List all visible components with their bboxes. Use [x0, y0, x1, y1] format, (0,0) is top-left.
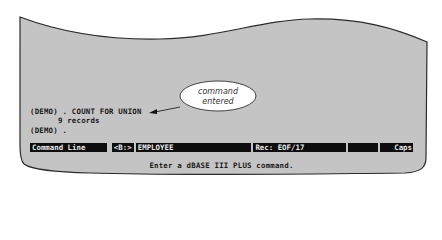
callout-bubble: [180, 81, 256, 111]
status-mode: Command Line: [30, 143, 107, 152]
help-message: Enter a dBASE III PLUS command.: [30, 161, 413, 170]
console-line-command: (DEMO) . COUNT FOR UNION: [30, 107, 142, 116]
status-bar: Command Line <B:> EMPLOYEE Rec: EOF/17 C…: [30, 143, 413, 152]
console-line-prompt: (DEMO) .: [30, 126, 67, 135]
status-caps: Caps: [380, 143, 413, 152]
status-drive: <B:>: [112, 143, 134, 152]
callout-line1: command: [198, 87, 239, 96]
status-blank: [348, 143, 378, 152]
status-database: EMPLOYEE: [136, 143, 252, 152]
callout-line2: entered: [202, 97, 234, 106]
console-line-result: 9 records: [30, 116, 100, 125]
status-record: Rec: EOF/17: [253, 143, 346, 152]
